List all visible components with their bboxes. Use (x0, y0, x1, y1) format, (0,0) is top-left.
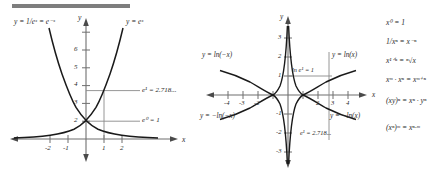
mid-ytick-neg1: -1 (276, 110, 282, 117)
left-x-axis-arrow (170, 136, 178, 142)
mid-label-ln-x: y = ln(x) (332, 52, 357, 59)
mid-y-axis-arrow-up (285, 16, 291, 24)
left-annotation-e0: e⁰ = 1 (142, 117, 160, 124)
mid-ytick-2: 2 (278, 53, 281, 60)
left-y-axis-arrow-up (83, 18, 89, 26)
mid-x-axis-arrow-right (359, 92, 367, 98)
formula-zero-exponent: x⁰ = 1 (386, 18, 405, 27)
figure-sheet: y = 1/eˣ = e⁻ˣ y = eˣ x y 2 3 4 5 6 -2 -… (0, 0, 441, 180)
formula-fractional-exponent: x¹ᐟⁿ = ⁿ√x (386, 56, 416, 65)
mid-annotation-ln-e: ln e¹ = 1 (292, 67, 314, 73)
exponent-rules-list: x⁰ = 1 1/xⁿ = x⁻ⁿ x¹ᐟⁿ = ⁿ√x xᵐ · xⁿ = x… (386, 18, 441, 158)
left-axis-y-label: y (78, 14, 81, 22)
left-label-decay-curve: y = 1/eˣ = e⁻ˣ (14, 18, 55, 25)
formula-power-of-power: (xⁿ)ᵐ = xⁿ·ᵐ (386, 123, 420, 132)
mid-logarithmic-chart: y = ln(−x) y = −ln(−x) y = ln(x) y = −ln… (200, 12, 385, 172)
mid-ytick-1: 1 (278, 72, 281, 79)
mid-axis-y-label: y (280, 14, 283, 21)
mid-label-neg-ln-neg-x: y = −ln(−x) (200, 113, 235, 120)
left-ytick-5: 5 (74, 64, 78, 71)
mid-chart-svg (200, 12, 385, 172)
mid-xtick-neg3: -3 (239, 100, 245, 107)
left-ytick-4: 4 (74, 81, 78, 88)
mid-label-ln-neg-x: y = ln(−x) (202, 52, 232, 59)
mid-xtick-4: 4 (346, 100, 349, 107)
left-y-axis-arrow-down (83, 154, 89, 162)
left-xtick-neg1: -1 (63, 145, 69, 152)
left-label-growth-curve: y = eˣ (126, 18, 143, 25)
formula-product-rule: xᵐ · xⁿ = xᵐ⁺ⁿ (386, 75, 426, 84)
left-guide-lines (86, 91, 140, 139)
left-x-axis-arrow-left (10, 136, 18, 142)
left-xtick-neg2: -2 (45, 145, 51, 152)
mid-ytick-neg3: -3 (276, 148, 282, 155)
left-annotation-e1: e¹ = 2.718... (142, 87, 176, 94)
left-ytick-2: 2 (74, 117, 78, 124)
left-xtick-1: 1 (102, 145, 106, 152)
mid-y-axis-arrow-down (285, 160, 291, 168)
mid-ytick-3: 3 (278, 34, 281, 41)
left-axis-x-label: x (182, 136, 185, 144)
left-ytick-3: 3 (74, 99, 78, 106)
left-ytick-6: 6 (74, 46, 78, 53)
left-exponential-chart: y = 1/eˣ = e⁻ˣ y = eˣ x y 2 3 4 5 6 -2 -… (0, 12, 200, 172)
mid-ytick-neg2: -2 (276, 129, 282, 136)
mid-annotation-e1: e¹ = 2.718... (300, 130, 331, 136)
mid-xtick-2: 2 (316, 100, 319, 107)
mid-xtick-neg2: -2 (254, 100, 260, 107)
mid-xtick-3: 3 (331, 100, 334, 107)
formula-negative-exponent: 1/xⁿ = x⁻ⁿ (386, 37, 416, 46)
mid-x-axis-arrow-left (206, 92, 214, 98)
mid-label-neg-ln-x: y = −ln(x) (330, 113, 360, 120)
top-rule-divider (12, 4, 130, 8)
mid-xtick-neg4: -4 (224, 100, 230, 107)
mid-axis-x-label: x (372, 92, 375, 99)
left-xtick-2: 2 (120, 145, 124, 152)
formula-power-of-product: (xy)ⁿ = xⁿ · yⁿ (386, 96, 426, 105)
